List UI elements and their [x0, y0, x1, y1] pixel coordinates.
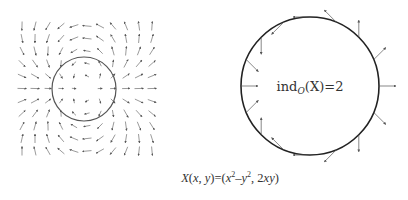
- boundary-arrow: [246, 100, 258, 112]
- field-arrow: [60, 74, 63, 79]
- field-arrow: [125, 134, 126, 143]
- field-arrow: [84, 63, 89, 64]
- field-arrow: [45, 74, 50, 79]
- field-arrow: [18, 99, 26, 102]
- field-arrow: [135, 99, 143, 103]
- field-arrow: [125, 34, 127, 43]
- field-arrow: [110, 148, 116, 155]
- field-arrow: [150, 122, 155, 130]
- field-arrow: [151, 34, 154, 43]
- field-arrow: [123, 99, 130, 103]
- field-arrow: [139, 134, 140, 143]
- boundary-arrow: [374, 112, 386, 124]
- field-arrow: [151, 134, 154, 143]
- field-arrow: [136, 110, 142, 117]
- field-arrow: [85, 100, 89, 102]
- field-arrow: [96, 24, 104, 28]
- field-arrow: [83, 38, 92, 39]
- field-arrow: [84, 125, 91, 126]
- field-arrow: [18, 74, 26, 78]
- field-arrow: [59, 47, 63, 54]
- boundary-arrow: [246, 60, 258, 72]
- field-arrow: [32, 110, 37, 117]
- field-arrow: [20, 47, 24, 55]
- field-arrow: [97, 123, 102, 128]
- index-label: indO(X)=2: [277, 79, 344, 96]
- field-arrow: [112, 110, 113, 117]
- field-arrow: [70, 37, 78, 40]
- field-arrow: [96, 149, 104, 153]
- field-arrow: [148, 74, 156, 77]
- field-arrow: [46, 22, 51, 30]
- field-arrow: [71, 124, 77, 128]
- field-arrow: [34, 122, 36, 131]
- field-arrow: [136, 60, 142, 67]
- field-arrow: [46, 147, 50, 155]
- field-arrow: [74, 99, 75, 103]
- field-arrow: [84, 113, 89, 114]
- field-arrow: [126, 47, 127, 56]
- field-arrow: [110, 23, 116, 30]
- field-arrow: [111, 135, 115, 143]
- field-arrow: [34, 47, 36, 56]
- field-arrow: [70, 137, 78, 140]
- field-arrow: [83, 151, 92, 152]
- field-arrow: [152, 22, 153, 31]
- field-arrow: [99, 111, 101, 116]
- field-arrow: [45, 99, 51, 103]
- field-arrow: [71, 49, 77, 53]
- field-arrow: [97, 48, 102, 53]
- field-arrow: [124, 110, 128, 118]
- field-arrow: [85, 75, 89, 77]
- field-arrow: [148, 100, 156, 103]
- field-arrow: [47, 110, 50, 118]
- field-arrow: [135, 74, 143, 78]
- field-arrow: [125, 122, 126, 131]
- field-arrow: [149, 111, 156, 117]
- field-arrow: [139, 147, 140, 156]
- field-arrow: [72, 112, 76, 116]
- index-argument: (X): [305, 79, 324, 94]
- field-arrow: [72, 62, 76, 66]
- field-arrow: [137, 47, 140, 55]
- field-arrow: [34, 22, 36, 31]
- field-arrow: [84, 50, 91, 51]
- field-arrow: [96, 36, 103, 41]
- left-unit-circle: [52, 57, 116, 121]
- field-arrow: [124, 60, 128, 68]
- field-arrow: [21, 134, 23, 143]
- field-arrow: [20, 122, 24, 130]
- field-arrow: [19, 60, 25, 66]
- field-arrow: [73, 74, 74, 78]
- field-arrow: [47, 134, 50, 143]
- field-arrow: [21, 34, 23, 43]
- field-arrow: [70, 150, 79, 153]
- field-arrow: [58, 148, 65, 154]
- field-arrow: [70, 25, 79, 28]
- field-arrow: [83, 26, 92, 27]
- boundary-arrow: [374, 48, 386, 60]
- field-arrow: [137, 122, 140, 130]
- field-arrow: [32, 60, 37, 67]
- left-vector-field: [18, 22, 157, 156]
- field-arrow: [58, 23, 65, 29]
- field-arrow: [59, 99, 62, 103]
- field-arrow: [31, 99, 39, 103]
- field-arrow: [113, 60, 114, 67]
- vector-field-figure: indO(X)=2: [0, 0, 408, 200]
- field-arrow: [112, 122, 114, 130]
- field-arrow: [19, 110, 26, 116]
- field-arrow: [59, 122, 63, 129]
- field-arrow: [152, 147, 153, 156]
- field-arrow: [111, 35, 116, 43]
- field-arrow: [139, 34, 140, 43]
- field-arrow: [96, 136, 103, 141]
- field-arrow: [99, 99, 100, 104]
- field-arrow: [34, 147, 36, 156]
- field-arrow: [58, 135, 64, 142]
- field-arrow: [47, 60, 50, 68]
- field-arrow: [150, 47, 155, 55]
- field-arrow: [112, 47, 114, 56]
- field-arrow: [123, 74, 130, 79]
- field-arrow: [124, 22, 127, 30]
